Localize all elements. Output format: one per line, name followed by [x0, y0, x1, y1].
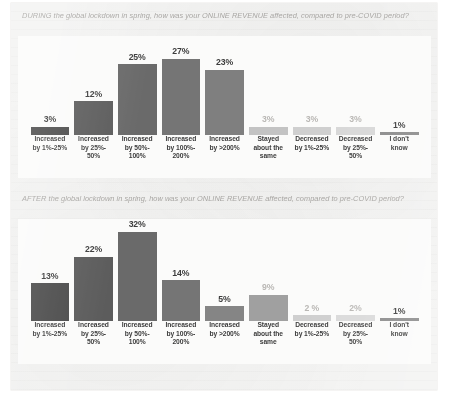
- x-axis-labels-after: Increasedby 1%-25%Increasedby 25%-50%Inc…: [28, 321, 421, 362]
- x-axis-label-line: 50%: [336, 338, 376, 347]
- x-axis-label-line: 200%: [161, 338, 201, 347]
- x-axis-label-line: by 100%-: [161, 330, 201, 339]
- x-axis-label-line: Increased: [74, 135, 114, 144]
- bar-cell: 3%: [290, 36, 334, 135]
- bar-value-label: 3%: [349, 114, 361, 124]
- x-axis-label-line: by >200%: [205, 144, 245, 153]
- bar-cell: 23%: [203, 36, 247, 135]
- x-axis-label-line: by >200%: [205, 330, 245, 339]
- x-axis-label-line: Increased: [74, 321, 114, 330]
- bar-rect: [31, 283, 70, 321]
- bar-value-label: 3%: [44, 114, 56, 124]
- bar-value-label: 22%: [85, 244, 102, 254]
- x-axis-label-line: Stayed: [248, 135, 288, 144]
- x-axis-label: Increasedby 100%-200%: [159, 135, 203, 176]
- bar-value-label: 12%: [85, 89, 102, 99]
- bar-value-label: 9%: [262, 282, 274, 292]
- x-axis-label: Increasedby 25%-50%: [72, 135, 116, 176]
- bar-cell: 22%: [72, 219, 116, 321]
- bar-cell: 1%: [377, 219, 421, 321]
- x-axis-label-line: 100%: [117, 338, 157, 347]
- x-axis-label-line: by 1%-25%: [30, 144, 70, 153]
- scanned-page-sheet: DURING the global lockdown in spring, ho…: [11, 3, 437, 390]
- chart-title-after: AFTER the global lockdown in spring, how…: [22, 194, 426, 205]
- x-axis-label: Increasedby 50%-100%: [115, 321, 159, 362]
- x-axis-label-line: Increased: [117, 321, 157, 330]
- x-axis-label-line: Decreased: [292, 321, 332, 330]
- bar-value-label: 23%: [216, 57, 233, 67]
- x-axis-label-line: Decreased: [336, 321, 376, 330]
- x-axis-label: Stayedabout thesame: [246, 321, 290, 362]
- x-axis-label: Increasedby >200%: [203, 321, 247, 362]
- x-axis-label-line: about the: [248, 330, 288, 339]
- bar-rect: [249, 127, 288, 135]
- bar-value-label: 1%: [393, 306, 405, 316]
- x-axis-label-line: I don't: [379, 321, 419, 330]
- bar-value-label: 3%: [262, 114, 274, 124]
- x-axis-label-line: by 50%-: [117, 330, 157, 339]
- x-axis-label-line: Increased: [161, 135, 201, 144]
- bar-rect: [249, 295, 288, 321]
- x-axis-label-line: 50%: [74, 338, 114, 347]
- bar-cell: 27%: [159, 36, 203, 135]
- x-axis-label-line: by 1%-25%: [292, 144, 332, 153]
- x-axis-label: I don'tknow: [377, 321, 421, 362]
- x-axis-label-line: Increased: [161, 321, 201, 330]
- bar-value-label: 1%: [393, 120, 405, 130]
- x-axis-label-line: Increased: [205, 135, 245, 144]
- bars-row-after: 13%22%32%14%5%9%2 %2%1%: [28, 219, 421, 321]
- plot-area-during: 3%12%25%27%23%3%3%3%1% Increasedby 1%-25…: [18, 36, 431, 178]
- bar-rect: [205, 70, 244, 135]
- bar-rect: [118, 232, 157, 322]
- x-axis-label-line: 100%: [117, 152, 157, 161]
- bar-value-label: 25%: [129, 52, 146, 62]
- bar-cell: 25%: [115, 36, 159, 135]
- x-axis-label: Increasedby 50%-100%: [115, 135, 159, 176]
- bar-cell: 2 %: [290, 219, 334, 321]
- x-axis-label-line: Stayed: [248, 321, 288, 330]
- x-axis-label: Decreasedby 25%-50%: [334, 135, 378, 176]
- bar-cell: 3%: [334, 36, 378, 135]
- bar-value-label: 14%: [172, 268, 189, 278]
- x-axis-label-line: 50%: [74, 152, 114, 161]
- bar-value-label: 32%: [129, 219, 146, 229]
- bar-rect: [205, 306, 244, 321]
- x-axis-label-line: know: [379, 330, 419, 339]
- bar-value-label: 2%: [349, 303, 361, 313]
- bar-rect: [293, 127, 332, 135]
- bar-rect: [162, 280, 201, 321]
- bar-cell: 9%: [246, 219, 290, 321]
- x-axis-label: Decreasedby 25%-50%: [334, 321, 378, 362]
- x-axis-label: Increasedby >200%: [203, 135, 247, 176]
- bar-rect: [31, 127, 70, 135]
- bar-cell: 14%: [159, 219, 203, 321]
- x-axis-label-line: know: [379, 144, 419, 153]
- bar-value-label: 5%: [218, 294, 230, 304]
- x-axis-label-line: same: [248, 338, 288, 347]
- x-axis-label-line: by 100%-: [161, 144, 201, 153]
- x-axis-label-line: Increased: [30, 135, 70, 144]
- bar-cell: 3%: [28, 36, 72, 135]
- bars-row-during: 3%12%25%27%23%3%3%3%1%: [28, 36, 421, 135]
- chart-title-during: DURING the global lockdown in spring, ho…: [22, 11, 426, 22]
- x-axis-label-line: Increased: [30, 321, 70, 330]
- bar-cell: 1%: [377, 36, 421, 135]
- bar-cell: 3%: [246, 36, 290, 135]
- bar-value-label: 2 %: [305, 303, 320, 313]
- bar-rect: [74, 257, 113, 321]
- bar-value-label: 27%: [172, 46, 189, 56]
- x-axis-label: Increasedby 100%-200%: [159, 321, 203, 362]
- x-axis-label: Increasedby 1%-25%: [28, 321, 72, 362]
- bar-cell: 13%: [28, 219, 72, 321]
- x-axis-label-line: by 1%-25%: [30, 330, 70, 339]
- x-axis-label-line: Increased: [117, 135, 157, 144]
- bar-cell: 12%: [72, 36, 116, 135]
- bar-rect: [118, 64, 157, 135]
- x-axis-label-line: by 25%-: [336, 330, 376, 339]
- x-axis-label-line: I don't: [379, 135, 419, 144]
- bar-rect: [162, 59, 201, 135]
- bar-value-label: 13%: [41, 271, 58, 281]
- x-axis-label-line: by 50%-: [117, 144, 157, 153]
- x-axis-label-line: Decreased: [336, 135, 376, 144]
- x-axis-label-line: 200%: [161, 152, 201, 161]
